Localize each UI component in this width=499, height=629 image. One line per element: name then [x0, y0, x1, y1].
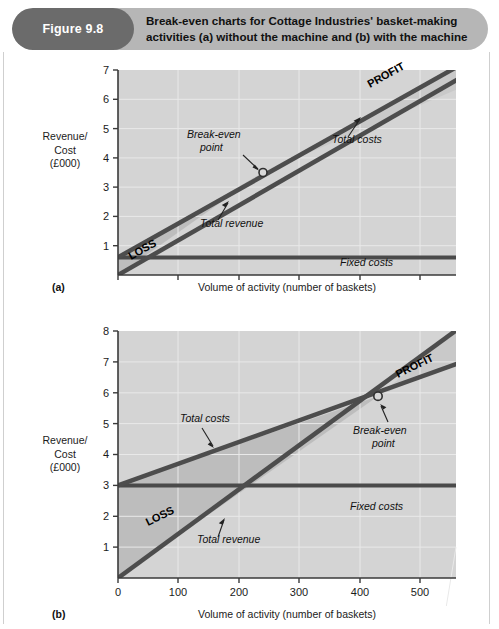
y-title-line-2: Cost: [22, 144, 108, 158]
y-title-line-3: (£000): [22, 157, 108, 171]
y-title-line-1: Revenue/: [22, 434, 108, 448]
breakeven-chart-a: Revenue/ Cost (£000) Volume of activity …: [0, 55, 499, 303]
chart-b-panel-letter: (b): [52, 608, 65, 620]
y-tick-8: 8: [103, 325, 109, 337]
chart-b-x-axis-title: Volume of activity (number of baskets): [167, 608, 407, 622]
y-tick-7: 7: [103, 356, 109, 368]
chart-a-break-even-label-line2: point: [199, 141, 224, 153]
chart-b-break-even-marker: [374, 392, 382, 400]
figure-number-tag: Figure 9.8: [12, 8, 134, 50]
chart-a-total-revenue-label: Total revenue: [200, 217, 263, 229]
chart-b-break-even-label-line1: Break-even: [353, 424, 407, 436]
chart-a-break-even-marker: [259, 169, 267, 177]
chart-b-y-axis-title: Revenue/ Cost (£000): [22, 434, 108, 475]
chart-a-break-even-label-line1: Break-even: [187, 128, 241, 140]
y-tick-5: 5: [103, 418, 109, 430]
y-title-line-1: Revenue/: [22, 130, 108, 144]
y-tick-7: 7: [103, 64, 109, 76]
y-tick-3: 3: [103, 181, 109, 193]
chart-a-fixed-costs-label: Fixed costs: [340, 256, 394, 268]
chart-a-y-axis-title: Revenue/ Cost (£000): [22, 130, 108, 171]
breakeven-chart-b: Revenue/ Cost (£000) Volume of activity …: [0, 318, 499, 629]
y-tick-1: 1: [103, 541, 109, 553]
y-tick-1: 1: [103, 240, 109, 252]
figure-header-banner: Figure 9.8 Break-even charts for Cottage…: [12, 8, 488, 50]
x-tick-500: 500: [411, 586, 429, 598]
x-tick-100: 100: [169, 586, 187, 598]
chart-b-total-costs-label: Total costs: [180, 412, 231, 424]
chart-b-total-revenue-label: Total revenue: [197, 533, 260, 545]
chart-a-total-costs-label: Total costs: [332, 133, 383, 145]
y-tick-6: 6: [103, 387, 109, 399]
figure-caption: Break-even charts for Cottage Industries…: [146, 13, 482, 44]
y-tick-6: 6: [103, 93, 109, 105]
x-tick-400: 400: [351, 586, 369, 598]
y-tick-2: 2: [103, 210, 109, 222]
x-tick-300: 300: [290, 586, 308, 598]
chart-a-panel-letter: (a): [52, 281, 65, 293]
chart-b-break-even-label-line2: point: [371, 437, 396, 449]
chart-b-fixed-costs-label: Fixed costs: [350, 500, 404, 512]
y-title-line-2: Cost: [22, 448, 108, 462]
y-tick-3: 3: [103, 479, 109, 491]
y-tick-2: 2: [103, 510, 109, 522]
chart-a-x-axis-title: Volume of activity (number of baskets): [167, 281, 407, 295]
chart-b-x-tick-labels: 0 100 200 300 400 500: [115, 586, 429, 598]
x-tick-0: 0: [115, 586, 121, 598]
y-title-line-3: (£000): [22, 461, 108, 475]
x-tick-200: 200: [230, 586, 248, 598]
